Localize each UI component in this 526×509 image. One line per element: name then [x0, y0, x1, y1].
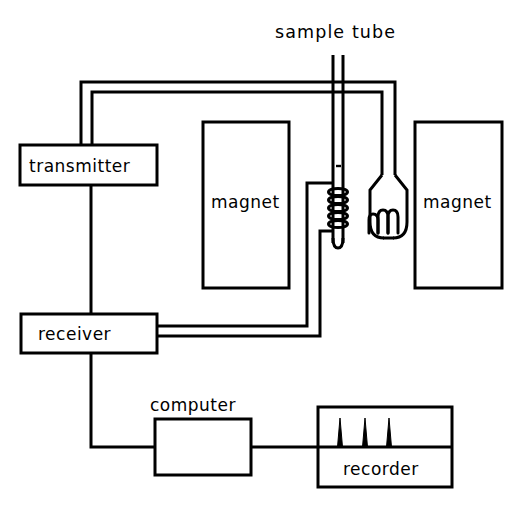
computer-label: computer: [150, 395, 236, 415]
recorder: recorder: [318, 407, 452, 487]
recorder-label: recorder: [343, 459, 419, 479]
sample-tube-label: sample tube: [275, 22, 396, 42]
magnet-left: magnet: [203, 122, 289, 288]
receiver-label: receiver: [38, 324, 111, 344]
rf-coil: [329, 188, 348, 227]
receiver: receiver: [21, 314, 157, 353]
magnet-right-label: magnet: [423, 192, 492, 212]
transmitter-label: transmitter: [29, 156, 130, 176]
magnet-left-label: magnet: [211, 192, 280, 212]
dewar-flask: [369, 175, 407, 238]
computer: computer: [150, 395, 251, 475]
transmitter: transmitter: [20, 145, 157, 185]
nmr-spectrometer-diagram: sample tube: [0, 0, 526, 509]
receiver-computer-wire: [91, 353, 155, 447]
magnet-right: magnet: [415, 122, 502, 288]
diagram-canvas: sample tube: [0, 0, 526, 509]
